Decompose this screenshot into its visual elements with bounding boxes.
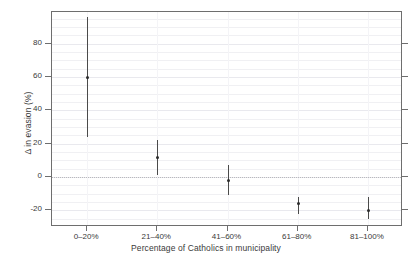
y-axis-tick (45, 109, 51, 110)
x-axis-tick (86, 226, 87, 231)
y-axis-tick-label: 20 (2, 138, 42, 147)
y-axis-tick-label: 60 (2, 71, 42, 80)
y-axis-tick (45, 43, 51, 44)
chart-figure: Δ in evasion (%) 806040200-20 0–20%21–40… (0, 0, 412, 265)
data-point (86, 76, 89, 79)
gridline (52, 119, 401, 120)
vertical-gridline (157, 12, 158, 225)
y-axis-tick-right (402, 209, 408, 210)
x-axis-tick (227, 226, 228, 231)
gridline (52, 102, 401, 103)
gridline (52, 127, 401, 128)
x-axis-tick-label: 0–20% (51, 232, 121, 241)
gridline (52, 160, 401, 161)
x-axis-tick (156, 226, 157, 231)
vertical-gridline (298, 12, 299, 225)
data-point (227, 179, 230, 182)
gridline (52, 27, 401, 28)
gridline (52, 210, 401, 211)
gridline (52, 185, 401, 186)
gridline (52, 69, 401, 70)
gridline (52, 135, 401, 136)
y-axis-tick (45, 76, 51, 77)
gridline (52, 44, 401, 45)
gridline (52, 144, 401, 145)
gridline (52, 85, 401, 86)
y-axis-tick-right (402, 176, 408, 177)
y-axis-tick (45, 176, 51, 177)
data-point (297, 202, 300, 205)
y-axis-tick-label: 40 (2, 104, 42, 113)
y-axis-tick-right (402, 43, 408, 44)
gridline (52, 194, 401, 195)
y-axis-tick-right (402, 76, 408, 77)
gridline (52, 169, 401, 170)
gridline (52, 19, 401, 20)
gridline (52, 94, 401, 95)
x-axis-tick-label: 41–60% (192, 232, 262, 241)
gridline (52, 110, 401, 111)
y-axis-tick (45, 209, 51, 210)
error-bar (298, 197, 299, 214)
vertical-gridline (368, 12, 369, 225)
y-axis-tick-label: 0 (2, 171, 42, 180)
gridline (52, 202, 401, 203)
x-axis-tick-label: 21–40% (121, 232, 191, 241)
gridline (52, 52, 401, 53)
x-axis-tick (297, 226, 298, 231)
y-axis-tick (45, 143, 51, 144)
x-axis-tick-label: 81–100% (332, 232, 402, 241)
gridline (52, 60, 401, 61)
gridline (52, 77, 401, 78)
y-axis-tick-label: 80 (2, 38, 42, 47)
data-point (156, 156, 159, 159)
gridline (52, 152, 401, 153)
y-axis-tick-label: -20 (2, 204, 42, 213)
gridline (52, 219, 401, 220)
y-axis-tick-right (402, 109, 408, 110)
x-axis-tick (367, 226, 368, 231)
x-axis-tick-label: 61–80% (262, 232, 332, 241)
gridline (52, 35, 401, 36)
x-axis-title: Percentage of Catholics in municipality (0, 243, 412, 253)
y-axis-tick-right (402, 143, 408, 144)
data-point (367, 209, 370, 212)
error-bar (368, 197, 369, 219)
plot-panel (51, 11, 402, 226)
